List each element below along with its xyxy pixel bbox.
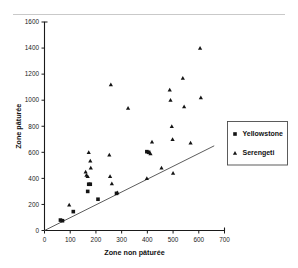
series-yellowstone-points — [59, 150, 151, 223]
data-point-serengeti — [110, 181, 114, 185]
y-axis-title: Zone pâturée — [14, 104, 23, 149]
legend: YellowstoneSerengeti — [228, 122, 288, 166]
y-axis — [45, 22, 48, 231]
legend-label-yellowstone: Yellowstone — [243, 130, 284, 137]
x-axis-tick-labels: 0100200300400500600700 — [43, 236, 231, 243]
x-tick-label: 400 — [142, 236, 153, 243]
data-point-serengeti — [89, 166, 93, 170]
data-point-serengeti — [87, 150, 91, 154]
scatter-plot-figure: 02004006008001000120014001600 0100200300… — [0, 0, 298, 268]
data-point-serengeti — [126, 106, 130, 110]
data-point-serengeti — [171, 171, 175, 175]
data-point-serengeti — [88, 159, 92, 163]
y-tick-label: 200 — [28, 201, 39, 208]
legend-label-serengeti: Serengeti — [243, 149, 275, 157]
x-tick-label: 100 — [65, 236, 76, 243]
data-point-serengeti — [181, 76, 185, 80]
data-point-serengeti — [159, 166, 163, 170]
data-point-serengeti — [170, 137, 174, 141]
x-tick-label: 500 — [168, 236, 179, 243]
x-axis — [45, 228, 225, 231]
y-tick-label: 400 — [28, 175, 39, 182]
data-point-serengeti — [170, 124, 174, 128]
series-serengeti-points — [67, 46, 203, 207]
x-tick-label: 300 — [116, 236, 127, 243]
data-point-serengeti — [182, 105, 186, 109]
y-tick-label: 1200 — [25, 70, 40, 77]
data-point-serengeti — [67, 203, 71, 207]
data-point-serengeti — [168, 98, 172, 102]
data-point-serengeti — [188, 141, 192, 145]
axes-group — [42, 22, 225, 234]
data-point-serengeti — [145, 176, 149, 180]
chart-canvas: 02004006008001000120014001600 0100200300… — [0, 0, 298, 268]
x-tick-label: 0 — [43, 236, 47, 243]
data-point-serengeti — [168, 88, 172, 92]
y-tick-label: 1600 — [25, 18, 40, 25]
data-point-serengeti — [109, 82, 113, 86]
legend-box — [228, 122, 288, 166]
data-point-yellowstone — [88, 182, 92, 186]
data-point-yellowstone — [72, 210, 76, 214]
data-point-serengeti — [198, 46, 202, 50]
y-tick-label: 1000 — [25, 96, 40, 103]
legend-marker-yellowstone — [233, 132, 237, 136]
data-point-serengeti — [150, 140, 154, 144]
y-tick-label: 0 — [35, 227, 39, 234]
data-point-yellowstone — [61, 219, 65, 223]
y-tick-label: 800 — [28, 123, 39, 130]
data-point-serengeti — [199, 95, 203, 99]
reference-line — [45, 146, 215, 231]
x-axis-title: Zone non pâturée — [104, 248, 164, 257]
y-tick-label: 1400 — [25, 44, 40, 51]
x-tick-label: 600 — [193, 236, 204, 243]
data-point-serengeti — [84, 170, 88, 174]
x-tick-label: 200 — [91, 236, 102, 243]
y-tick-label: 600 — [28, 149, 39, 156]
data-point-serengeti — [108, 174, 112, 178]
data-point-serengeti — [107, 153, 111, 157]
y-axis-tick-labels: 02004006008001000120014001600 — [25, 18, 40, 234]
data-point-yellowstone — [96, 197, 100, 201]
data-point-yellowstone — [86, 190, 90, 194]
x-tick-label: 700 — [219, 236, 230, 243]
